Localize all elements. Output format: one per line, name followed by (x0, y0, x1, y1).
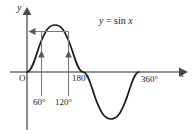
ordinate-marker-120 (65, 32, 72, 97)
origin-label: O (19, 74, 26, 83)
y-axis-arrowhead (23, 7, 32, 15)
equation-label: y = sin x (99, 16, 133, 26)
y-axis-label: y (17, 3, 21, 13)
angle-label-120: 120° (55, 98, 72, 107)
equation-function: sin (114, 15, 126, 26)
sine-graph-figure: y x O y = sin x 60° 120° 180° 360° (0, 0, 192, 138)
equation-equals: = (103, 15, 114, 26)
equation-variable: x (126, 15, 133, 26)
angle-label-60: 60° (33, 98, 46, 107)
angle-label-360: 360° (141, 75, 158, 84)
equal-ordinate-guide-arrowhead (29, 28, 36, 35)
angle-label-180: 180° (72, 74, 89, 83)
ordinate-arrowhead-60 (38, 51, 45, 58)
x-axis-label: x (180, 70, 184, 79)
x-axis (10, 68, 188, 77)
ordinate-marker-60 (38, 32, 45, 97)
ordinate-arrowhead-120 (65, 51, 72, 58)
sine-graph-canvas (0, 0, 192, 138)
